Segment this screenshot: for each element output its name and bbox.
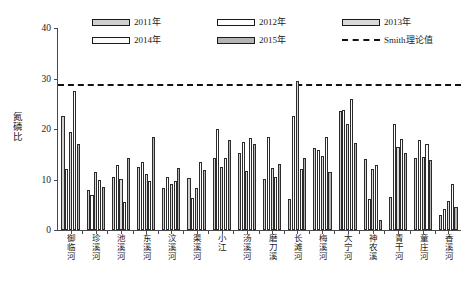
- bar: [249, 138, 252, 230]
- bar: [451, 184, 454, 230]
- legend-item-2013: 2013年: [342, 18, 466, 27]
- bar: [364, 159, 367, 230]
- x-axis-label-text: 大宁河: [342, 234, 351, 288]
- bar: [87, 190, 90, 230]
- bar: [317, 150, 320, 230]
- bar: [148, 181, 151, 230]
- bar: [339, 111, 342, 230]
- bar: [152, 137, 155, 230]
- bar: [396, 147, 399, 230]
- bar: [425, 144, 428, 230]
- x-axis-label-text: 御临河: [65, 234, 74, 288]
- bar: [350, 99, 353, 230]
- bar: [342, 110, 345, 230]
- x-axis-label-text: 渠溪河: [191, 234, 200, 288]
- x-axis-label-text: 汶溪河: [166, 234, 175, 288]
- bar-group: [108, 28, 133, 230]
- x-axis-label: 汤溪河: [233, 234, 258, 288]
- bar: [137, 167, 140, 230]
- bar: [77, 144, 80, 230]
- x-axis-label-text: 香溪河: [443, 234, 452, 288]
- x-axis-label: 香溪河: [435, 234, 460, 288]
- bar: [73, 91, 76, 230]
- x-axis-labels: 御临河珍溪河池溪河东溪河汶溪河渠溪河小江汤溪河磨刀溪长滩河梅溪河大宁河神农溪青干…: [57, 234, 460, 288]
- bar: [368, 199, 371, 230]
- legend-swatch-2011-icon: [92, 19, 130, 26]
- bar: [242, 142, 245, 230]
- x-axis-label-text: 梅溪河: [317, 234, 326, 288]
- bar: [119, 179, 122, 231]
- x-axis-label: 梅溪河: [309, 234, 334, 288]
- y-axis-title-char-1: 氮: [12, 112, 23, 122]
- legend-item-2012: 2012年: [217, 18, 342, 27]
- bar: [325, 137, 328, 230]
- bar: [116, 165, 119, 230]
- bar: [69, 132, 72, 230]
- bar: [94, 172, 97, 230]
- bar-group: [360, 28, 385, 230]
- bar: [400, 139, 403, 230]
- bar: [195, 188, 198, 230]
- x-axis-label-text: 池溪河: [115, 234, 124, 288]
- bar: [90, 195, 93, 230]
- bar-group: [260, 28, 285, 230]
- bar: [141, 162, 144, 230]
- bar: [278, 164, 281, 230]
- bar: [288, 199, 291, 230]
- x-axis-label: 小江: [208, 234, 233, 288]
- legend-label-2012: 2012年: [259, 18, 286, 27]
- bar: [216, 129, 219, 230]
- x-axis-label: 青干河: [384, 234, 409, 288]
- bar: [328, 172, 331, 230]
- bar: [371, 169, 374, 230]
- bar-group: [83, 28, 108, 230]
- x-axis-label-text: 神农溪: [367, 234, 376, 288]
- y-axis-title: 氮 磷 比: [12, 112, 23, 142]
- x-axis-label: 磨刀溪: [259, 234, 284, 288]
- bar: [274, 177, 277, 230]
- y-axis-title-char-2: 磷: [12, 122, 23, 132]
- x-axis-label-text: 汤溪河: [241, 234, 250, 288]
- legend-swatch-2012-icon: [217, 19, 255, 26]
- y-axis-tick-mark: [54, 230, 58, 231]
- bar: [454, 207, 457, 230]
- bar: [379, 220, 382, 230]
- bar: [271, 168, 274, 230]
- bar: [238, 153, 241, 230]
- legend-label-2013: 2013年: [384, 18, 411, 27]
- bar: [443, 209, 446, 230]
- bar: [245, 171, 248, 230]
- bar: [166, 177, 169, 230]
- x-axis-label-text: 长滩河: [292, 234, 301, 288]
- x-axis-label: 神农溪: [359, 234, 384, 288]
- bar: [404, 153, 407, 230]
- x-axis-label: 渠溪河: [183, 234, 208, 288]
- bar: [389, 197, 392, 230]
- x-axis-label-text: 磨刀溪: [267, 234, 276, 288]
- bar-group: [58, 28, 83, 230]
- bar: [375, 165, 378, 230]
- bar: [98, 180, 101, 231]
- bar-groups: [58, 28, 461, 230]
- bar: [65, 169, 68, 230]
- bar: [170, 184, 173, 230]
- bar: [296, 81, 299, 230]
- bar-group: [335, 28, 360, 230]
- bar: [162, 188, 165, 230]
- bar: [303, 158, 306, 230]
- bar-group: [411, 28, 436, 230]
- bar-group: [209, 28, 234, 230]
- y-axis-title-char-3: 比: [12, 132, 23, 142]
- x-axis-label-text: 青干河: [393, 234, 402, 288]
- bar-group: [234, 28, 259, 230]
- bar: [439, 215, 442, 230]
- bar: [292, 116, 295, 230]
- bar: [220, 167, 223, 230]
- x-axis-label: 珍溪河: [82, 234, 107, 288]
- x-axis-label: 大宁河: [334, 234, 359, 288]
- bar: [127, 158, 130, 230]
- x-axis-label-text: 小江: [216, 234, 225, 288]
- bar: [224, 158, 227, 230]
- chart-figure: 2011年 2012年 2013年 2014年 2015年 Smith理论值 氮…: [0, 0, 476, 290]
- x-axis-label: 长滩河: [284, 234, 309, 288]
